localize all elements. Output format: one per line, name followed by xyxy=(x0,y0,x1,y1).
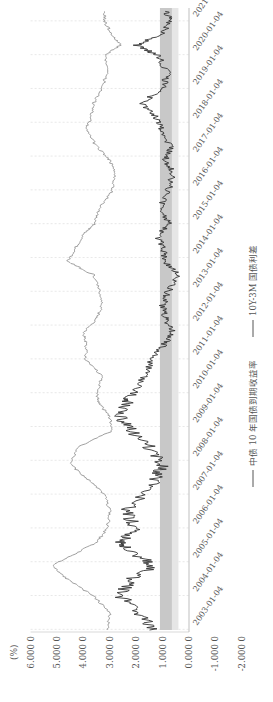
y-tick-label: 5.000 0 xyxy=(52,636,62,668)
y-tick-label: 6.000 0 xyxy=(26,636,36,668)
y-axis-unit-label: (%) xyxy=(9,644,19,660)
legend-label-yield: 中债 10 年国债到期收益率 xyxy=(248,360,258,466)
y-axis-tick-labels: 6.000 05.000 04.000 03.000 02.000 01.000… xyxy=(26,636,247,671)
y-tick-label: -1.000 0 xyxy=(210,636,220,671)
chart: 6.000 05.000 04.000 03.000 02.000 01.000… xyxy=(0,0,273,702)
x-axis-tick-labels: 2003-01-042004-01-042005-01-042006-01-04… xyxy=(191,0,225,627)
y-tick-label: 4.000 0 xyxy=(78,636,88,668)
y-tick-label: 3.000 0 xyxy=(105,636,115,668)
y-tick-label: 0.000 0 xyxy=(184,636,194,668)
chart-svg: 6.000 05.000 04.000 03.000 02.000 01.000… xyxy=(0,0,273,702)
y-tick-label: 1.000 0 xyxy=(158,636,168,668)
y-tick-label: -2.000 0 xyxy=(237,636,247,671)
legend: 中债 10 年国债到期收益率 10Y-3M 国债利差 xyxy=(248,245,258,487)
legend-label-spread: 10Y-3M 国债利差 xyxy=(248,245,258,316)
shaded-band xyxy=(160,8,178,630)
series-10y-yield-line xyxy=(53,11,121,630)
y-tick-label: 2.000 0 xyxy=(131,636,141,668)
